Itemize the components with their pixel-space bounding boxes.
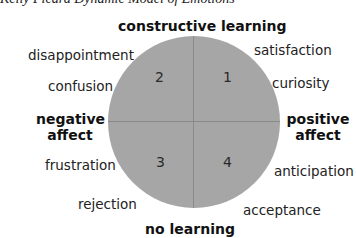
axis-label-right: positive affect <box>280 111 356 143</box>
figure-caption: Kelly Picard Dynamic Model of Emotions <box>0 0 235 7</box>
axis-label-bottom: no learning <box>130 221 250 237</box>
emotion-rejection: rejection <box>78 196 137 212</box>
emotion-disappointment: disappointment <box>28 47 134 63</box>
emotion-satisfaction: satisfaction <box>254 42 332 58</box>
axis-label-top: constructive learning <box>118 18 272 34</box>
emotion-confusion: confusion <box>48 78 113 94</box>
axis-label-right-line2: affect <box>280 127 356 143</box>
quadrant-number-4: 4 <box>223 154 232 170</box>
emotion-anticipation: anticipation <box>274 163 354 179</box>
quadrant-number-3: 3 <box>156 154 165 170</box>
emotion-acceptance: acceptance <box>243 202 321 218</box>
horizontal-axis-line <box>108 121 280 122</box>
axis-label-left: negative affect <box>36 111 104 143</box>
emotion-frustration: frustration <box>45 157 116 173</box>
vertical-axis-line <box>193 36 194 208</box>
quadrant-number-1: 1 <box>223 69 232 85</box>
quadrant-number-2: 2 <box>155 69 164 85</box>
emotion-curiosity: curiosity <box>272 75 330 91</box>
axis-label-left-line1: negative <box>36 111 104 127</box>
axis-label-right-line1: positive <box>280 111 356 127</box>
axis-label-left-line2: affect <box>36 127 104 143</box>
